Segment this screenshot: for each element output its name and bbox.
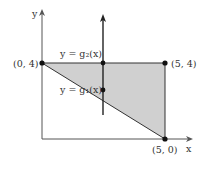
label-g1: y = g₁(x) bbox=[59, 84, 102, 95]
x-axis-label: x bbox=[186, 143, 192, 154]
label-point-0-4: (0, 4) bbox=[13, 58, 39, 69]
label-point-5-0: (5, 0) bbox=[152, 144, 178, 155]
label-point-5-4: (5, 4) bbox=[171, 58, 197, 69]
point-0-4 bbox=[39, 60, 44, 65]
point-g2 bbox=[101, 61, 106, 66]
point-5-4 bbox=[162, 60, 167, 65]
region-diagram: y x (0, 4) (5, 4) (5, 0) y = g₂(x) y = g… bbox=[0, 0, 208, 175]
label-g2: y = g₂(x) bbox=[59, 48, 102, 59]
point-5-0 bbox=[162, 136, 167, 141]
y-axis-label: y bbox=[31, 8, 38, 19]
